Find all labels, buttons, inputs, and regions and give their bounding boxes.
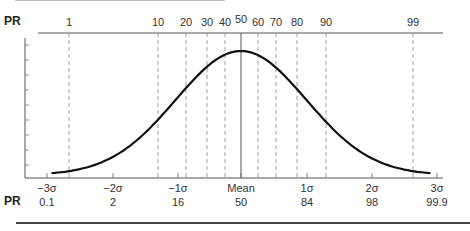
pr-value-label: 16	[172, 196, 184, 208]
pr-value-label: 50	[235, 196, 247, 208]
sigma-label: 1σ	[301, 182, 314, 194]
sigma-label: −2σ	[103, 182, 122, 194]
top-pr-label: PR	[4, 14, 21, 28]
pr-value-label: 98	[366, 196, 378, 208]
axes-frame	[25, 33, 443, 178]
pr-value-label: 99.9	[426, 196, 447, 208]
bottom-border-rule	[16, 222, 470, 224]
sigma-label: 3σ	[431, 182, 444, 194]
top-axis-tick-label: 60	[252, 16, 264, 28]
sigma-label: Mean	[227, 182, 255, 194]
top-axis-tick-label: 99	[407, 16, 419, 28]
bottom-pr-label: PR	[4, 194, 21, 208]
sigma-label: −3σ	[37, 182, 56, 194]
top-axis-tick-label: 40	[219, 16, 231, 28]
top-axis-tick-label: 1	[66, 16, 72, 28]
pr-value-label: 0.1	[39, 196, 54, 208]
top-axis-tick-label: 30	[201, 16, 213, 28]
top-axis-tick-label: 80	[291, 16, 303, 28]
sigma-label: −1σ	[168, 182, 187, 194]
top-axis-tick-label: 10	[152, 16, 164, 28]
pr-value-label: 84	[301, 196, 313, 208]
top-axis-tick-label: 20	[180, 16, 192, 28]
sigma-label: 2σ	[366, 182, 379, 194]
left-axis-ticks	[25, 45, 29, 165]
top-axis-tick-label: 50	[235, 13, 247, 25]
top-axis-tick-label: 70	[270, 16, 282, 28]
pr-value-label: 2	[110, 196, 116, 208]
top-axis-tick-label: 90	[320, 16, 332, 28]
percentile-gridlines	[69, 33, 413, 178]
sigma-ticks	[47, 173, 437, 178]
